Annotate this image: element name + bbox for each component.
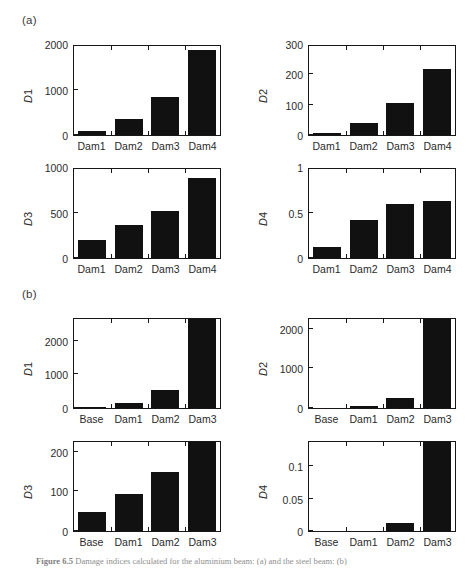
x-tick-mark-bottom [185,254,186,258]
bar [188,50,216,135]
x-tick-mark-bottom [420,404,421,408]
y-tick-mark [74,340,78,341]
x-tick-label: Dam1 [308,140,345,152]
bar [151,390,179,408]
x-tick-mark-top [148,319,149,323]
bar-series [309,319,455,408]
y-tick-mark [74,212,78,213]
x-axis-tick-labels: BaseDam1Dam2Dam3 [73,413,221,425]
y-tick-mark [309,407,313,408]
y-tick-label: 1 [235,162,303,174]
x-tick-mark-top [185,46,186,50]
y-axis-tick-labels: 0100200300 [235,45,303,136]
plot-area [308,168,456,259]
y-tick-mark [74,407,78,408]
bar-series [309,442,455,531]
y-tick-mark [74,257,78,258]
x-axis-tick-labels: BaseDam1Dam2Dam3 [73,536,221,548]
x-tick-label: Dam2 [110,263,147,275]
y-tick-label: 0 [0,130,68,142]
x-tick-label: Base [73,536,110,548]
bar [313,133,341,135]
subplot-a-d2: 0100200300Dam1Dam2Dam3Dam4D2 [235,40,470,158]
panel-label-b: (b) [22,288,37,300]
x-tick-label: Dam1 [345,413,382,425]
bar [423,319,451,408]
y-tick-label: 0 [235,130,303,142]
x-tick-mark-top [185,169,186,173]
x-tick-label: Dam1 [110,536,147,548]
x-tick-mark-top [383,46,384,50]
bar [386,103,414,135]
bar-series [74,319,220,408]
x-tick-label: Dam4 [184,263,221,275]
y-tick-mark [74,373,78,374]
y-tick-mark [74,89,78,90]
y-axis-tick-labels: 00.050.1 [235,441,303,532]
x-tick-label: Dam1 [73,140,110,152]
x-tick-mark-top [346,442,347,446]
x-tick-mark-bottom [148,254,149,258]
x-axis-tick-labels: BaseDam1Dam2Dam3 [308,413,456,425]
bar [423,69,451,135]
y-tick-mark [309,257,313,258]
x-tick-label: Dam1 [308,263,345,275]
plot-area [73,318,221,409]
y-tick-label: 0 [235,253,303,265]
x-tick-mark-bottom [185,404,186,408]
y-tick-mark [309,134,313,135]
x-tick-mark-bottom [185,131,186,135]
bar [115,494,143,531]
y-axis-title: D2 [257,361,269,375]
subplot-b-d4: 00.050.1BaseDam1Dam2Dam3D4 [235,436,470,554]
bar [386,523,414,531]
x-tick-mark-bottom [346,404,347,408]
bar [313,247,341,258]
y-tick-mark [309,530,313,531]
subplot-b-d3: 0100200BaseDam1Dam2Dam3D3 [0,436,235,554]
bar [386,398,414,408]
x-tick-mark-bottom [346,131,347,135]
y-tick-mark [309,465,313,466]
bar [423,201,451,258]
y-tick-mark [309,73,313,74]
y-tick-mark [309,104,313,105]
x-axis-tick-labels: Dam1Dam2Dam3Dam4 [73,140,221,152]
x-tick-mark-top [111,169,112,173]
y-tick-label: 1000 [235,363,303,375]
y-tick-label: 0.1 [235,461,303,473]
bar [151,472,179,531]
y-axis-title: D1 [22,88,34,102]
x-tick-mark-bottom [111,131,112,135]
x-tick-mark-top [148,442,149,446]
y-tick-label: 100 [0,486,68,498]
x-tick-mark-top [383,319,384,323]
x-tick-mark-top [420,46,421,50]
y-tick-label: 0 [235,526,303,538]
y-tick-label: 1000 [0,162,68,174]
x-tick-mark-bottom [148,131,149,135]
y-tick-label: 300 [235,39,303,51]
bar [115,119,143,135]
y-tick-label: 200 [235,69,303,81]
y-tick-label: 200 [0,447,68,459]
x-tick-mark-bottom [111,254,112,258]
bar [350,406,378,408]
x-tick-mark-top [346,46,347,50]
x-tick-mark-bottom [420,254,421,258]
x-tick-label: Dam2 [147,536,184,548]
bar [78,131,106,135]
x-tick-label: Dam2 [382,413,419,425]
x-tick-mark-top [420,319,421,323]
y-tick-mark [309,498,313,499]
x-tick-mark-bottom [383,404,384,408]
x-tick-label: Dam4 [419,140,456,152]
x-tick-label: Dam1 [110,413,147,425]
x-axis-tick-labels: BaseDam1Dam2Dam3 [308,536,456,548]
x-tick-mark-bottom [185,527,186,531]
bar [188,319,216,408]
x-tick-mark-top [383,169,384,173]
x-tick-label: Dam3 [184,536,221,548]
y-tick-label: 100 [235,100,303,112]
bar [115,403,143,408]
